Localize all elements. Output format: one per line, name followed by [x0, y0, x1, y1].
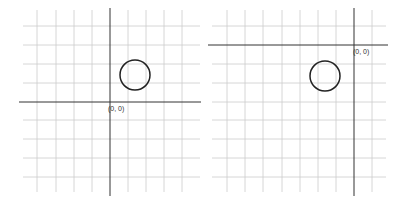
origin-label: (0, 0) [353, 48, 369, 56]
right-grid: (0, 0) [208, 8, 388, 196]
circle-shape [310, 61, 340, 91]
origin-label: (0, 0) [108, 105, 124, 113]
left-grid: (0, 0) [19, 8, 201, 196]
circle-shape [120, 60, 150, 90]
diagram-canvas: (0, 0)(0, 0) [0, 0, 407, 204]
